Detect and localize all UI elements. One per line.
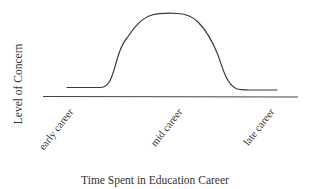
tick-label-late-career: late career [241,106,277,147]
x-axis-title: Time Spent in Education Career [81,174,229,187]
tick-label-mid-career: mid career [148,106,184,148]
x-axis-line [43,97,298,98]
concern-curve [67,13,277,90]
concern-curve-chart: Level of Concern early career mid career… [0,0,311,189]
tick-label-early-career: early career [37,106,76,152]
y-axis-title: Level of Concern [12,44,24,125]
